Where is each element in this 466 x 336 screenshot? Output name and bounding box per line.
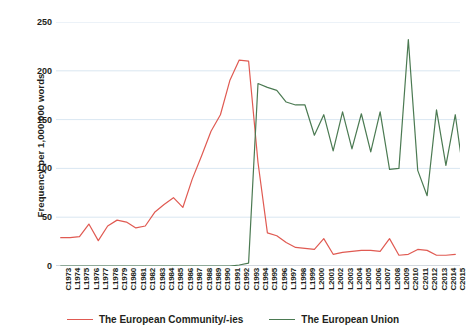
legend-item[interactable]: The European Community/-ies: [67, 314, 243, 325]
x-tick-label: C1973: [64, 268, 73, 291]
x-tick-label: L2005: [364, 268, 373, 290]
x-tick-label: C2010: [411, 268, 420, 291]
plot-svg: [56, 22, 460, 266]
x-tick-label: C1984: [167, 268, 176, 291]
x-tick-label: L1976: [92, 268, 101, 290]
plot-area: [56, 22, 460, 266]
x-tick-label: C2012: [430, 268, 439, 291]
x-tick-label: C1979: [120, 268, 129, 291]
x-tick-label: L1978: [111, 268, 120, 290]
legend-label: The European Union: [301, 314, 399, 325]
y-tick-label: 150: [6, 115, 52, 125]
gridlines: [56, 22, 460, 266]
x-tick-label: C1980: [129, 268, 138, 291]
x-tick-label: L1998: [299, 268, 308, 290]
x-tick-label: C1990: [223, 268, 232, 291]
frequency-line-chart: Frequency per 1,000,000 words 0501001502…: [0, 0, 466, 336]
x-tick-label: L2009: [402, 268, 411, 290]
x-tick-label: C1992: [242, 268, 251, 291]
x-axis-tick-labels: C1973L1974L1975L1976L1977L1978C1979C1980…: [56, 268, 460, 312]
x-tick-label: C2013: [440, 268, 449, 291]
x-tick-label: L1997: [289, 268, 298, 290]
x-tick-label: L1974: [73, 268, 82, 290]
y-tick-label: 250: [6, 17, 52, 27]
x-tick-label: C1981: [139, 268, 148, 291]
x-tick-label: L2002: [336, 268, 345, 290]
x-tick-label: C1982: [148, 268, 157, 291]
x-tick-label: C1994: [261, 268, 270, 291]
x-tick-label: L2000: [317, 268, 326, 290]
series-lines: [61, 40, 460, 266]
y-tick-label: 200: [6, 66, 52, 76]
y-axis-tick-labels: 050100150200250: [0, 22, 52, 266]
x-tick-label: L2007: [383, 268, 392, 290]
series-line-1: [61, 40, 460, 266]
legend-swatch-icon: [67, 319, 93, 320]
x-tick-label: C1983: [158, 268, 167, 291]
x-tick-label: L2006: [374, 268, 383, 290]
x-tick-label: C1989: [214, 268, 223, 291]
x-tick-label: C2011: [421, 268, 430, 290]
legend-item[interactable]: The European Union: [269, 314, 399, 325]
x-tick-label: L2001: [327, 268, 336, 290]
legend-label: The European Community/-ies: [99, 314, 243, 325]
y-tick-label: 0: [6, 261, 52, 271]
x-tick-label: L1999: [308, 268, 317, 290]
x-tick-label: C1996: [280, 268, 289, 291]
x-tick-label: L1977: [101, 268, 110, 290]
y-tick-label: 100: [6, 163, 52, 173]
x-tick-label: L2003: [346, 268, 355, 290]
x-tick-label: C1986: [186, 268, 195, 291]
x-tick-label: L1975: [82, 268, 91, 290]
x-tick-label: C1985: [176, 268, 185, 291]
x-tick-label: C1988: [205, 268, 214, 291]
legend-swatch-icon: [269, 319, 295, 320]
x-tick-label: L2004: [355, 268, 364, 290]
x-tick-label: C1995: [270, 268, 279, 291]
y-tick-label: 50: [6, 212, 52, 222]
x-tick-label: C1991: [233, 268, 242, 291]
x-tick-label: C2015: [458, 268, 466, 291]
x-tick-label: C1987: [195, 268, 204, 291]
x-tick-label: C2014: [449, 268, 458, 291]
x-tick-label: L2008: [393, 268, 402, 290]
chart-legend: The European Community/-iesThe European …: [0, 314, 466, 325]
x-tick-label: C1993: [252, 268, 261, 291]
